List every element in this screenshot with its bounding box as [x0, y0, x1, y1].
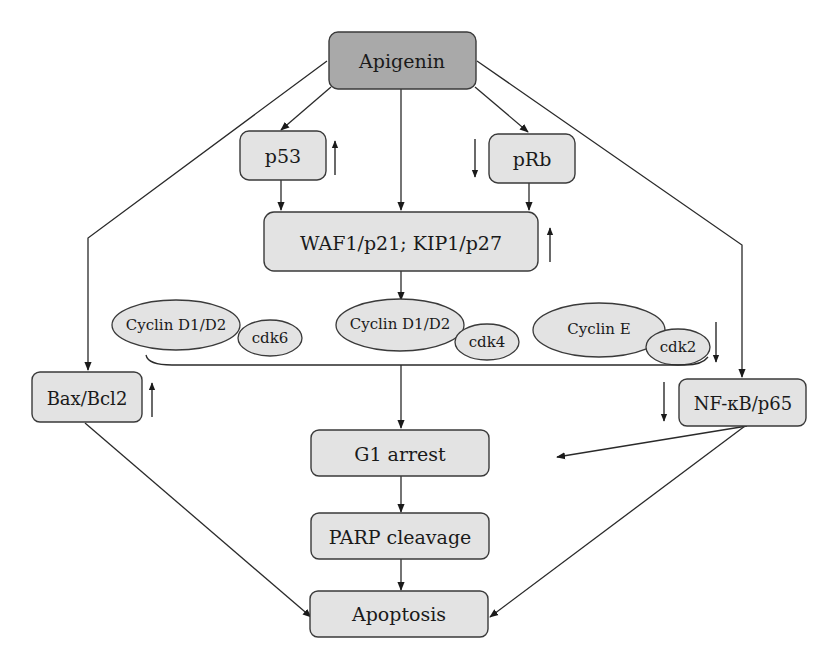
node-prb-label: pRb [513, 148, 552, 170]
node-g1-arrest: G1 arrest [311, 430, 489, 476]
cyclin-cdk-complexes: Cyclin D1/D2 cdk6 Cyclin D1/D2 cdk4 Cycl… [112, 299, 710, 365]
cyclin-d-a-label: Cyclin D1/D2 [126, 316, 227, 334]
node-p53: p53 [240, 131, 326, 180]
node-waf1-label: WAF1/p21; KIP1/p27 [300, 232, 502, 254]
node-parp-label: PARP cleavage [329, 526, 472, 548]
regulation-indicators [152, 139, 716, 421]
apigenin-pathway-diagram: Apigenin p53 pRb WAF1/p21; KIP1/p27 Cycl… [0, 0, 837, 662]
node-parp-cleavage: PARP cleavage [311, 513, 489, 559]
edge-nfkb-apoptosis [490, 426, 745, 617]
node-apoptosis: Apoptosis [310, 591, 488, 637]
complex-cyclin-d-cdk4: Cyclin D1/D2 cdk4 [336, 299, 519, 360]
node-apigenin-label: Apigenin [358, 50, 445, 72]
cyclin-e-label: Cyclin E [567, 320, 630, 338]
node-waf1: WAF1/p21; KIP1/p27 [264, 212, 538, 271]
edge-nfkb-g1 [557, 426, 747, 457]
node-apigenin: Apigenin [329, 32, 476, 89]
cdk2-label: cdk2 [660, 338, 697, 356]
complex-cyclin-e-cdk2: Cyclin E cdk2 [533, 303, 710, 365]
node-apoptosis-label: Apoptosis [351, 603, 446, 625]
node-p53-label: p53 [265, 145, 301, 167]
cdk4-label: cdk4 [469, 333, 506, 351]
edge-apigenin-p53 [281, 87, 331, 130]
complex-cyclin-d-cdk6: Cyclin D1/D2 cdk6 [112, 300, 302, 356]
node-bax-label: Bax/Bcl2 [47, 388, 128, 409]
node-g1-label: G1 arrest [354, 443, 446, 465]
node-bax: Bax/Bcl2 [32, 372, 142, 422]
node-nfkb-label: NF-κB/p65 [694, 393, 792, 414]
edge-apigenin-prb [475, 87, 528, 132]
node-nfkb: NF-κB/p65 [679, 379, 806, 426]
node-prb: pRb [489, 134, 575, 183]
complex-bracket [146, 355, 708, 365]
cdk6-label: cdk6 [252, 329, 289, 347]
cyclin-d-b-label: Cyclin D1/D2 [350, 315, 451, 333]
edge-bax-apoptosis [85, 423, 311, 617]
